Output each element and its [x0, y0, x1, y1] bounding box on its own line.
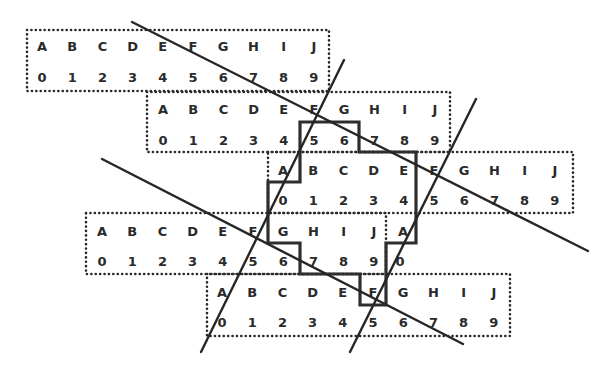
strip-5-digit: 2 — [278, 315, 287, 330]
strip-5-digit: 6 — [399, 315, 408, 330]
strip-2-letter: I — [402, 102, 407, 117]
strip-diagram: ABCDEFGHIJ0123456789ABCDEFGHIJ0123456789… — [0, 0, 611, 370]
strip-1-letter: C — [98, 39, 108, 54]
strip-3-letter: H — [489, 163, 500, 178]
strip-4-digit: 0 — [97, 254, 106, 269]
strip-4-digit: 8 — [339, 254, 348, 269]
strip-labels: ABCDEFGHIJ0123456789ABCDEFGHIJ0123456789… — [37, 39, 559, 330]
strip-1-digit: 5 — [188, 70, 197, 85]
strip-1-letter: G — [218, 39, 229, 54]
strip-5-letter: G — [398, 285, 409, 300]
strip-4-letter: I — [341, 224, 346, 239]
strip-5-digit: 1 — [248, 315, 257, 330]
strip-3-letter: D — [368, 163, 379, 178]
strip-2-letter: D — [248, 102, 259, 117]
strip-1-letter: I — [281, 39, 286, 54]
strip-5-letter: H — [428, 285, 439, 300]
strip-5-digit: 3 — [308, 315, 317, 330]
strip-5-letter: I — [461, 285, 466, 300]
strip-1-letter: H — [248, 39, 259, 54]
strip-4-digit: 9 — [369, 254, 378, 269]
strip-1-digit: 9 — [309, 70, 318, 85]
strip-5-letter: B — [247, 285, 257, 300]
strip-5-digit: 8 — [459, 315, 468, 330]
strip-4-letter: G — [278, 224, 289, 239]
strip-1-letter: E — [158, 39, 167, 54]
strip-3-letter: J — [551, 163, 557, 178]
strip-5-digit: 5 — [368, 315, 377, 330]
strip-5-letter: E — [338, 285, 347, 300]
strip-2-letter: E — [279, 102, 288, 117]
strip-2-letter: B — [188, 102, 198, 117]
strip-4-letter: D — [187, 224, 198, 239]
strip-4-letter: E — [218, 224, 227, 239]
strip-2-letter: J — [431, 102, 437, 117]
strip-4-digit: 1 — [128, 254, 137, 269]
strip-1-letter: J — [310, 39, 316, 54]
strip-3-letter: B — [308, 163, 318, 178]
strip-4-digit: 2 — [158, 254, 167, 269]
cut-line-upper — [132, 22, 588, 251]
strip-3-digit: 9 — [550, 193, 559, 208]
strip-3-digit: 5 — [429, 193, 438, 208]
strip-4-letter: A — [97, 224, 107, 239]
strip-3-digit: 1 — [309, 193, 318, 208]
strip-2-digit: 8 — [400, 133, 409, 148]
strip-4-digit: 6 — [279, 254, 288, 269]
strip-3-digit: 8 — [520, 193, 529, 208]
strip-3-digit: 6 — [460, 193, 469, 208]
strip-1-digit: 4 — [158, 70, 167, 85]
strip-2-digit: 9 — [430, 133, 439, 148]
strip-4-digit: 5 — [248, 254, 257, 269]
strip-5-digit: 4 — [338, 315, 347, 330]
strip-4-letter: C — [158, 224, 168, 239]
strip-1-letter: A — [37, 39, 47, 54]
strip-1-digit: 6 — [219, 70, 228, 85]
strip-1-digit: 0 — [37, 70, 46, 85]
strip-3-digit: 2 — [339, 193, 348, 208]
strip-1-letter: B — [67, 39, 77, 54]
strip-1-digit: 3 — [128, 70, 137, 85]
strip-2-digit: 0 — [158, 133, 167, 148]
strip-2-letter: H — [369, 102, 380, 117]
strip-1-digit: 1 — [68, 70, 77, 85]
strip-2-digit: 5 — [309, 133, 318, 148]
strip-3-letter: C — [339, 163, 349, 178]
strip-5-letter: C — [278, 285, 288, 300]
strip-5-letter: J — [490, 285, 496, 300]
strip-3-letter: E — [399, 163, 408, 178]
strip-2-digit: 3 — [249, 133, 258, 148]
strip-4-digit: 3 — [188, 254, 197, 269]
strip-4-letter: B — [127, 224, 137, 239]
strip-5-letter: D — [307, 285, 318, 300]
strip-3-digit: 4 — [399, 193, 408, 208]
strip-2-digit: 6 — [340, 133, 349, 148]
strip-1-digit: 8 — [279, 70, 288, 85]
strip-2-digit: 2 — [219, 133, 228, 148]
strip-2-letter: C — [219, 102, 229, 117]
strip-5-letter: A — [217, 285, 227, 300]
strip-4-letter: H — [308, 224, 319, 239]
strip-4-letter: J — [370, 224, 376, 239]
strip-3-digit: 3 — [369, 193, 378, 208]
strip-5-digit: 9 — [489, 315, 498, 330]
strip-4-digit: 4 — [218, 254, 227, 269]
strip-1-letter: D — [127, 39, 138, 54]
strip-1-digit: 2 — [98, 70, 107, 85]
strip-2-digit: 4 — [279, 133, 288, 148]
strip-2-letter: A — [158, 102, 168, 117]
cut-lines — [102, 22, 588, 352]
strip-3-letter: I — [522, 163, 527, 178]
strip-2-digit: 1 — [189, 133, 198, 148]
strip-3-digit: 0 — [278, 193, 287, 208]
strip-3-letter: G — [459, 163, 470, 178]
strip-2-letter: G — [339, 102, 350, 117]
